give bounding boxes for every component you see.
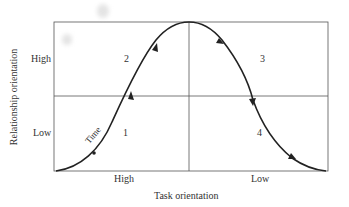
quadrant-2-label: 2	[124, 54, 129, 64]
quadrant-4-label: 4	[257, 128, 262, 138]
diagram-canvas	[0, 0, 349, 207]
x-tick-high: High	[114, 174, 134, 184]
y-tick-low: Low	[33, 128, 51, 138]
curve-marker-icon	[92, 151, 96, 155]
scan-smudge	[97, 4, 109, 18]
situational-leadership-diagram: Relationship orientation High Low High L…	[0, 0, 349, 207]
scan-smudge	[62, 34, 72, 45]
x-tick-low: Low	[251, 174, 269, 184]
time-curve	[56, 22, 326, 171]
quadrant-3-label: 3	[260, 54, 265, 64]
arrow-up-icon	[128, 91, 134, 100]
y-tick-high: High	[31, 54, 51, 64]
x-axis-label: Task orientation	[154, 191, 219, 201]
y-axis-label: Relationship orientation	[9, 42, 19, 152]
quadrant-1-label: 1	[123, 128, 128, 138]
